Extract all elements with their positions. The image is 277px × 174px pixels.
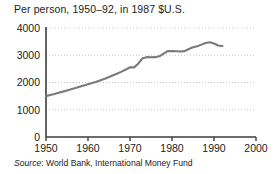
x-tick-label: 1950 [34, 142, 58, 154]
gridlines-group [46, 28, 256, 110]
y-tick-label: 1000 [17, 104, 41, 116]
line-chart-plot: 01000200030004000 1950196019701980199020… [0, 0, 277, 174]
x-axis-tick-labels: 195019601970198019902000 [34, 142, 268, 154]
y-tick-label: 0 [34, 131, 40, 143]
data-series-group [46, 42, 222, 96]
y-tick-label: 2000 [17, 76, 41, 88]
source-note: Source: World Bank, International Money … [14, 158, 193, 168]
x-tick-label: 1960 [76, 142, 100, 154]
y-tick-label: 3000 [17, 49, 41, 61]
source-label: Source [14, 158, 41, 168]
x-tick-label: 1990 [202, 142, 226, 154]
x-tick-label: 2000 [244, 142, 268, 154]
chart-figure: Per person, 1950–92, in 1987 $U.S. 01000… [0, 0, 277, 174]
x-tick-label: 1980 [160, 142, 184, 154]
y-axis-tick-labels: 01000200030004000 [17, 22, 41, 143]
series-line [46, 42, 222, 96]
source-text: : World Bank, International Money Fund [41, 158, 192, 168]
x-tick-label: 1970 [118, 142, 142, 154]
y-tick-label: 4000 [17, 22, 41, 34]
